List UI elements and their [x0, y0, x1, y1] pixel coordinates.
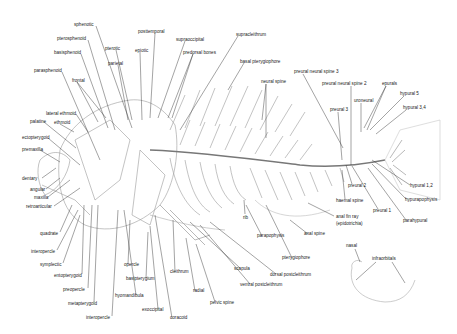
diagram-canvas: sphenoticpterosphenoidbasisphenoidparasp…	[0, 0, 457, 334]
label-cleithrum: cleithrum	[170, 270, 189, 275]
label-symplectic: symplectic	[40, 263, 61, 268]
label-entopterygoid: entopterygoid	[54, 274, 82, 279]
label-supraoccipital: supraoccipital	[176, 38, 204, 43]
label-angular: angular	[30, 188, 45, 193]
label-interopercle-upper: interopercle	[31, 250, 55, 255]
label-dentary: dentary	[22, 177, 37, 182]
label-ventral-postcleithrum: ventral postcleithrum	[240, 283, 282, 288]
label-opercle: opercle	[124, 263, 139, 268]
label-parietal: parietal	[108, 62, 123, 67]
label-basisphenoid: basisphenoid	[54, 51, 81, 56]
label-preural-neural-spine-3: preural neural spine 3	[294, 70, 338, 75]
label-preural-2: preural 2	[348, 184, 366, 189]
label-preopercle: preopercle	[63, 288, 85, 293]
label-anal-fin-ray: anal fin ray	[336, 215, 358, 220]
label-quadrate: quadrate	[40, 232, 58, 237]
label-coracoid: coracoid	[170, 316, 187, 321]
label-retroarticular: retroarticular	[26, 205, 52, 210]
label-uroneural: uroneural	[354, 99, 373, 104]
label-hypurapophysis: hypurapophysis	[405, 198, 437, 203]
label-pterosphenoid: pterosphenoid	[57, 37, 86, 42]
label-preural-neural-spine-2: preural neural spine 2	[322, 82, 366, 87]
label-dorsal-postcleithrum: dorsal postcleithrum	[270, 273, 311, 278]
label-posttemporal: posttemporal	[138, 30, 165, 35]
label-supracleithrum: supracleithrum	[236, 33, 266, 38]
label-scapula: scapula	[234, 267, 250, 272]
label-rib: rib	[243, 216, 248, 221]
label-parahypural: parahypural	[403, 219, 427, 224]
label-hyomandibula: hyomandibula	[115, 294, 144, 299]
label-neural-spine: neural spine	[261, 80, 286, 85]
label-pelvic-spine: pelvic spine	[210, 301, 234, 306]
label-ectopterygoid: ectopterygoid	[22, 136, 50, 141]
label-parasphenoid: parasphenoid	[34, 69, 62, 74]
label-metapterygoid: metapterygoid	[68, 302, 97, 307]
label-pterygiophore: pterygiophore	[282, 256, 310, 261]
label-infraorbitals: infraorbitals	[372, 257, 396, 262]
label-hypural-5: hypural 5	[400, 92, 419, 97]
label-ethmoid: ethmoid	[54, 121, 70, 126]
label-hypural-1-2: hypural 1,2	[410, 184, 433, 189]
label-epiotic: epiotic	[135, 49, 148, 54]
label-nasal: nasal	[346, 244, 357, 249]
label-epidotrichia: (epidotrichia)	[336, 222, 363, 227]
label-interopercle-lower: interopercle	[86, 316, 110, 321]
label-preural-3: preural 3	[330, 108, 348, 113]
label-epurals: epurals	[382, 82, 397, 87]
label-preural-1: preural 1	[373, 209, 391, 214]
label-palatine: palatine	[30, 120, 46, 125]
label-basipterygium: basipterygium	[126, 277, 155, 282]
label-premaxilla: premaxilla	[22, 148, 43, 153]
label-haemal-spine: haemal spine	[336, 199, 363, 204]
label-hypural-3-4: hypural 3,4	[403, 106, 426, 111]
label-parapophysis: parapophysis	[257, 234, 284, 239]
label-radial: radial	[193, 289, 204, 294]
label-lateral-ethmoid: lateral ethmoid	[46, 112, 76, 117]
label-pterotic: pterotic	[105, 47, 120, 52]
label-predorsal-bones: predorsal bones	[183, 51, 216, 56]
label-maxilla: maxilla	[34, 196, 48, 201]
label-exoccipital: exoccipital	[142, 308, 163, 313]
label-sphenotic: sphenotic	[74, 23, 94, 28]
label-anal-spine: anal spine	[304, 232, 325, 237]
label-frontal: frontal	[72, 79, 85, 84]
label-basal-pterygiophore: basal pterygiophore	[240, 60, 280, 65]
leader-lines	[40, 26, 410, 318]
